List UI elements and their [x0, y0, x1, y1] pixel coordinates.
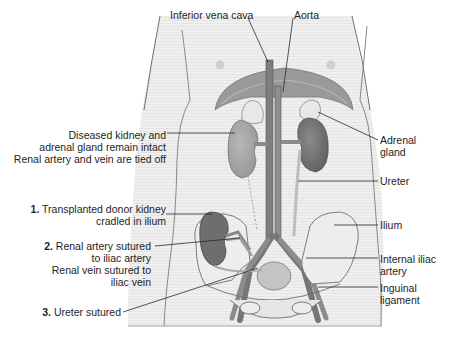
left-adrenal-gland [242, 100, 263, 123]
label-ilium: Ilium [380, 219, 402, 231]
label-step-2-vessels-sutured: 2. Renal artery sutured to iliac artery … [44, 240, 151, 288]
label-step-1-transplanted-kidney: 1. Transplanted donor kidney cradled in … [31, 203, 166, 227]
label-adrenal-gland: Adrenal gland [380, 134, 416, 158]
label-aorta: Aorta [294, 9, 319, 21]
kidney-transplant-diagram: Inferior vena cava Aorta Diseased kidney… [0, 0, 451, 347]
inferior-vena-cava [266, 60, 273, 240]
torso-outline [128, 16, 384, 326]
label-ureter: Ureter [380, 175, 409, 187]
aorta [275, 86, 281, 240]
label-inguinal-ligament: Inguinal ligament [380, 282, 420, 306]
label-inferior-vena-cava: Inferior vena cava [170, 9, 253, 21]
label-internal-iliac-artery: Internal iliac artery [380, 253, 436, 277]
label-step-3-ureter-sutured: 3. Ureter sutured [42, 306, 121, 318]
left-diseased-kidney [228, 120, 258, 178]
bladder [257, 262, 291, 290]
label-diseased-kidney: Diseased kidney and adrenal gland remain… [14, 129, 166, 165]
